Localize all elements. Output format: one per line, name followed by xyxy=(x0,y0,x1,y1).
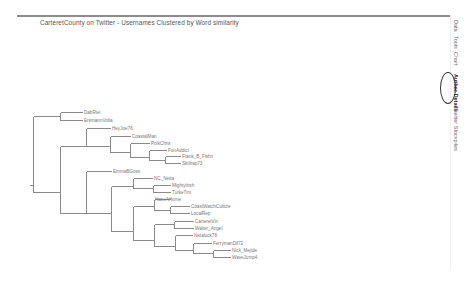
leaf-label[interactable]: HaseAHome xyxy=(155,197,181,202)
leaf-label[interactable]: HeyJoe76 xyxy=(112,126,133,131)
leaf-label[interactable]: Skiltrap73 xyxy=(182,161,203,166)
dendrogram-leaf-labels: DabRielErsmannVoltaHeyJoe76CoastalManPol… xyxy=(84,110,258,260)
leaf-label[interactable]: PolkChris xyxy=(151,141,171,146)
leaf-label[interactable]: FunAddict xyxy=(168,148,189,153)
leaf-label[interactable]: Frank_B_Fishn xyxy=(182,154,214,159)
leaf-label[interactable]: ErsmannVolta xyxy=(84,118,113,123)
leaf-label[interactable]: EmmaBGoss xyxy=(113,169,141,174)
leaf-label[interactable]: NC_Netta xyxy=(154,176,175,181)
leaf-label[interactable]: LocalRep xyxy=(191,211,211,216)
leaf-label[interactable]: WaveJump4 xyxy=(232,255,258,260)
leaf-label[interactable]: CarteretVin xyxy=(195,219,219,224)
leaf-label[interactable]: Netaluck78 xyxy=(194,233,217,238)
leaf-label[interactable]: Walter_Angel xyxy=(195,226,222,231)
leaf-label[interactable]: MightyIrish xyxy=(172,183,195,188)
leaf-label[interactable]: FerrymanDif72 xyxy=(213,241,244,246)
leaf-label[interactable]: TurkeTim xyxy=(172,190,191,195)
dendrogram: DabRielErsmannVoltaHeyJoe76CoastalManPol… xyxy=(0,0,473,281)
leaf-label[interactable]: CoastWatchCulture xyxy=(191,204,231,209)
leaf-label[interactable]: CoastalMan xyxy=(132,134,157,139)
leaf-label[interactable]: Nick_Mejide xyxy=(232,248,257,253)
leaf-label[interactable]: DabRiel xyxy=(84,110,100,115)
